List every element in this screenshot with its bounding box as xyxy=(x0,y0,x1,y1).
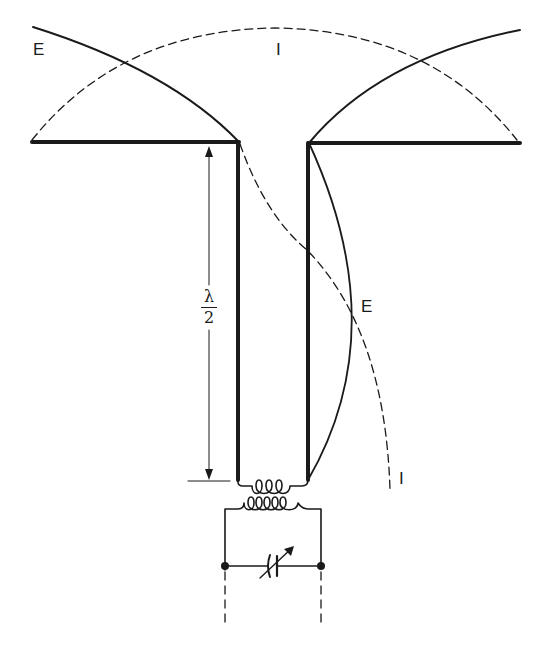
antenna-diagram xyxy=(0,0,547,651)
current-curve-top xyxy=(32,28,517,140)
label-i-top: I xyxy=(276,41,281,58)
dimension-arrow-up-icon xyxy=(205,146,213,157)
voltage-curve-feeder xyxy=(308,143,352,480)
variable-capacitor-icon xyxy=(268,555,270,577)
dimension-numerator: λ xyxy=(204,287,214,306)
junction-dot-right xyxy=(317,562,325,570)
dimension-denominator: 2 xyxy=(204,308,214,327)
dimension-label-half-wavelength: λ 2 xyxy=(199,289,219,326)
feed-coil xyxy=(238,480,308,494)
dimension-arrow-down-icon xyxy=(205,469,213,480)
current-curve-feeder xyxy=(240,144,390,490)
junction-dot-left xyxy=(221,562,229,570)
voltage-curve-left xyxy=(33,27,239,142)
voltage-curve-right xyxy=(309,30,520,143)
label-e-right: E xyxy=(361,298,372,315)
label-e-top-left: E xyxy=(33,41,44,58)
label-i-bottom-right: I xyxy=(399,470,404,487)
tank-coil xyxy=(225,497,321,570)
